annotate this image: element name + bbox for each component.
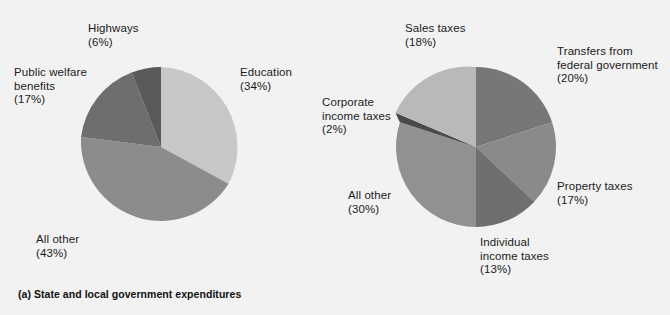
label-highways-name: Highways (88, 22, 139, 36)
label-individual-income-taxes-pct: (13%) (480, 263, 549, 277)
label-public-welfare-benefits: Public welfare benefits (17%) (14, 66, 87, 107)
label-all-other-revenue-pct: (30%) (348, 203, 391, 217)
caption-panel-a: (a) State and local government expenditu… (18, 288, 241, 300)
label-highways: Highways (6%) (88, 22, 139, 49)
label-sales-taxes: Sales taxes (18%) (405, 22, 466, 49)
label-corporate-income-taxes: Corporate income taxes (2%) (322, 96, 391, 137)
label-all-other-expenditures-name: All other (36, 233, 79, 247)
panel-state-local-expenditures: Highways (6%) Public welfare benefits (1… (0, 0, 335, 315)
label-all-other-revenue-name: All other (348, 189, 391, 203)
label-property-taxes-name: Property taxes (557, 180, 633, 194)
label-transfers-from-federal-government: Transfers from federal government (20%) (557, 45, 658, 86)
label-all-other-expenditures-pct: (43%) (36, 247, 79, 261)
label-highways-pct: (6%) (88, 36, 139, 50)
label-education-pct: (34%) (240, 80, 292, 94)
label-corporate-income-taxes-name-line2: income taxes (322, 110, 391, 124)
label-individual-income-taxes-name-line2: income taxes (480, 250, 549, 264)
figure-two-pie-charts: Highways (6%) Public welfare benefits (1… (0, 0, 670, 315)
label-all-other-revenue: All other (30%) (348, 189, 391, 216)
label-transfers-name-line1: Transfers from (557, 45, 658, 59)
label-public-welfare-benefits-pct: (17%) (14, 93, 87, 107)
label-individual-income-taxes: Individual income taxes (13%) (480, 236, 549, 277)
label-transfers-name-line2: federal government (557, 59, 658, 73)
pie-chart-expenditures (0, 0, 335, 315)
label-individual-income-taxes-name-line1: Individual (480, 236, 549, 250)
label-corporate-income-taxes-pct: (2%) (322, 123, 391, 137)
panel-state-local-revenue: Sales taxes (18%) Transfers from federal… (335, 0, 670, 315)
label-property-taxes: Property taxes (17%) (557, 180, 633, 207)
label-public-welfare-benefits-name-line2: benefits (14, 80, 87, 94)
label-education: Education (34%) (240, 66, 292, 93)
label-public-welfare-benefits-name-line1: Public welfare (14, 66, 87, 80)
label-transfers-pct: (20%) (557, 72, 658, 86)
label-property-taxes-pct: (17%) (557, 194, 633, 208)
label-sales-taxes-pct: (18%) (405, 36, 466, 50)
label-corporate-income-taxes-name-line1: Corporate (322, 96, 391, 110)
label-education-name: Education (240, 66, 292, 80)
label-all-other-expenditures: All other (43%) (36, 233, 79, 260)
label-sales-taxes-name: Sales taxes (405, 22, 466, 36)
